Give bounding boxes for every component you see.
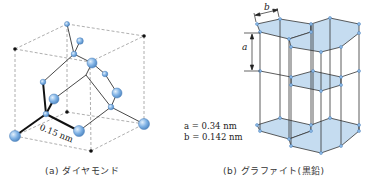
param-b-value: b = 0.142 nm xyxy=(184,132,243,142)
diamond-caption: (a) ダイヤモンド xyxy=(45,164,119,177)
param-a-value: a = 0.34 nm xyxy=(184,121,237,131)
diamond-panel: 0.15 nm (a) ダイヤモンド xyxy=(0,0,183,188)
graphite-structure-figure xyxy=(183,0,366,188)
dimension-a-label: a xyxy=(242,42,247,52)
dimension-b-label: b xyxy=(264,2,270,12)
diamond-structure-figure xyxy=(0,0,183,188)
graphite-caption: (b) グラファイト(黒鉛) xyxy=(223,164,325,177)
graphite-panel: a b a = 0.34 nm b = 0.142 nm (b) グラファイト(… xyxy=(183,0,366,188)
